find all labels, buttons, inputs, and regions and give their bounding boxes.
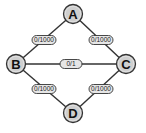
edge-capacity-label: 0/1 (66, 60, 75, 67)
edge-capacity-label: 0/1000 (34, 36, 54, 43)
node-label: C (121, 57, 131, 72)
node-b: B (7, 55, 26, 74)
node-label: B (11, 57, 20, 72)
node-c: C (117, 55, 136, 74)
node-d: D (64, 104, 83, 123)
edge-label-c-d: 0/1000 (89, 85, 113, 94)
edge-label-b-d: 0/1000 (32, 85, 56, 94)
edge-label-b-c: 0/1 (60, 60, 82, 69)
node-label: D (68, 106, 77, 121)
node-label: A (68, 7, 78, 22)
node-a: A (64, 5, 83, 24)
edge-label-a-b: 0/1000 (32, 36, 56, 45)
edge-capacity-label: 0/1000 (91, 36, 111, 43)
edge-capacity-label: 0/1000 (34, 85, 54, 92)
edge-label-a-c: 0/1000 (89, 36, 113, 45)
flow-network-diagram: 0/10000/10000/10/10000/1000 ABCD (0, 0, 146, 133)
edge-capacity-label: 0/1000 (91, 85, 111, 92)
